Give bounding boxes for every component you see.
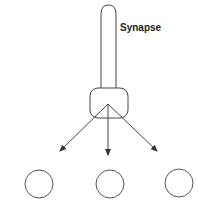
arrow-left (60, 104, 108, 151)
target-node-3 (165, 169, 193, 197)
synapse-label: Synapse (120, 22, 161, 33)
axon-tube (101, 5, 116, 90)
synapse-diagram (0, 0, 198, 213)
target-node-1 (25, 170, 53, 198)
axon-terminal (90, 88, 128, 118)
arrow-right (108, 104, 157, 151)
target-node-2 (96, 170, 124, 198)
